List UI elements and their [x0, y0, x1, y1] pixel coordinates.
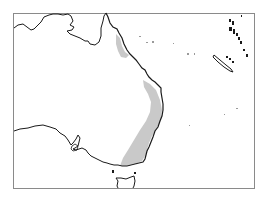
map-canvas	[0, 0, 263, 199]
range-map	[0, 0, 263, 199]
island-loyalty-2	[229, 58, 231, 60]
island-loyalty-3	[226, 56, 228, 58]
island-loyalty-1	[232, 61, 234, 63]
island-flinders	[134, 172, 136, 174]
island-king	[112, 170, 114, 173]
